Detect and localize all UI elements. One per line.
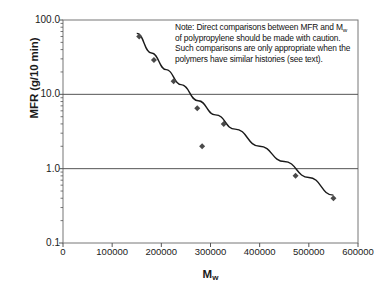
data-points [136, 33, 336, 201]
data-point [171, 78, 177, 84]
data-point [194, 105, 200, 111]
gridlines [63, 94, 358, 168]
plot-area [0, 0, 388, 293]
data-point [199, 143, 205, 149]
data-point [136, 33, 142, 39]
axis-ticks [59, 20, 358, 247]
data-point [330, 195, 336, 201]
data-point [151, 57, 157, 63]
chart-figure: MFR (g/10 min) 100.0 10.0 1.0 0.1 0 1000… [0, 0, 388, 293]
axis-frame [63, 20, 358, 243]
trend-line [137, 33, 334, 195]
data-point [293, 173, 299, 179]
